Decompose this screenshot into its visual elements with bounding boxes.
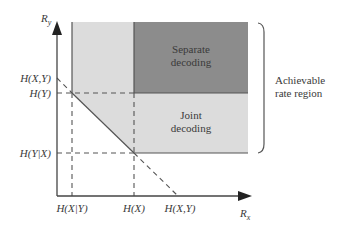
x-tick-hx: H(X) bbox=[122, 202, 145, 215]
separate-decoding-label-2: decoding bbox=[171, 56, 212, 68]
y-tick-hy: H(Y) bbox=[29, 87, 52, 100]
achievable-label-2: rate region bbox=[275, 87, 323, 99]
y-axis-label: Ry bbox=[40, 12, 52, 27]
rate-region-diagram: Ry Rx H(X,Y) H(Y) H(Y|X) H(X|Y) H(X) H(X… bbox=[0, 0, 340, 226]
x-tick-hxy: H(X,Y) bbox=[164, 202, 196, 215]
joint-decoding-label-2: decoding bbox=[171, 122, 212, 134]
y-tick-hxy: H(X,Y) bbox=[19, 72, 51, 85]
x-tick-hxgy: H(X|Y) bbox=[55, 202, 87, 215]
achievable-region-bracket bbox=[258, 23, 264, 153]
x-axis-label: Rx bbox=[239, 207, 251, 222]
x-axis-arrow-icon bbox=[238, 191, 252, 201]
joint-decoding-label-1: Joint bbox=[180, 109, 201, 121]
achievable-label-1: Achievable bbox=[275, 74, 325, 86]
y-axis-arrow-icon bbox=[52, 21, 62, 35]
y-tick-hyx: H(Y|X) bbox=[19, 147, 51, 160]
separate-decoding-label-1: Separate bbox=[172, 43, 210, 55]
